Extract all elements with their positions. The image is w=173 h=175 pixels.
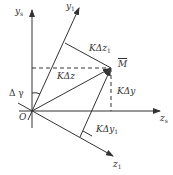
y1-axis [28,8,79,120]
kdy1-label: KΔy1 [96,125,118,135]
ys-label: ys [15,7,23,17]
diagram-graphics [0,0,173,175]
perp-tick [83,131,92,136]
angle-arc [32,93,40,94]
kdz1-label: KΔz1 [89,44,111,54]
point-m-label: M [118,60,127,69]
origin-label: O [19,113,26,122]
coordinate-rotation-diagram: ys y1 zs z1 O M Δ γ KΔz KΔz1 KΔy KΔy1 [0,0,173,175]
y1-label: y1 [66,2,75,12]
zs-label: zs [160,114,168,124]
kdz-label: KΔz [57,72,75,81]
z1-label: z1 [113,160,122,170]
angle-label: Δ γ [9,89,24,98]
kdy-label: KΔy [117,87,135,96]
